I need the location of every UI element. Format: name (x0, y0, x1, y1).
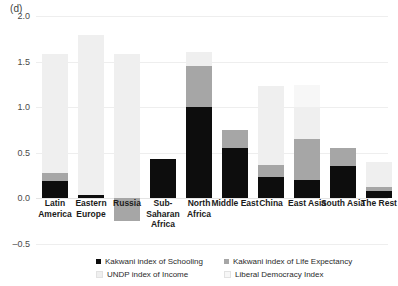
bar-segment (330, 148, 356, 166)
bar-segment (258, 177, 284, 198)
bar-segment (42, 181, 68, 198)
y-axis-tick-label: 0.0 (0, 193, 30, 203)
bar-segment (150, 159, 176, 198)
bar-segment (258, 165, 284, 178)
bar-segment (258, 86, 284, 164)
bar-segment (186, 52, 212, 66)
bar-segment (78, 35, 104, 195)
x-axis-category-label: The Rest (355, 198, 398, 209)
y-axis-tick-labels: –0.50.00.51.01.52.0 (0, 16, 32, 244)
bar-segment (366, 162, 392, 188)
bar-segment (42, 173, 68, 181)
bar-segment (222, 148, 248, 198)
legend-swatch-life_expectancy (224, 259, 229, 264)
category-label-line: The Rest (355, 198, 398, 209)
bar-segment (186, 66, 212, 107)
legend-label: UNDP index of Income (107, 270, 188, 279)
bar-segment (366, 187, 392, 191)
bar-segment (294, 139, 320, 180)
legend-item: Kakwani index of Life Expectancy (224, 257, 396, 266)
x-axis-category-labels: LatinAmericaEasternEuropeRussiaSub-Sahar… (36, 198, 392, 242)
legend-label: Liberal Democracy Index (235, 270, 323, 279)
bar-segment (330, 166, 356, 198)
legend-item: Liberal Democracy Index (224, 270, 396, 279)
chart-figure: (d) –0.50.00.51.01.52.0 LatinAmericaEast… (0, 0, 398, 286)
legend-swatch-democracy (224, 271, 231, 278)
bar-segment (42, 54, 68, 173)
bar-segment (222, 130, 248, 148)
category-label-line: Africa (175, 209, 223, 220)
y-axis-tick-label: 2.0 (0, 11, 30, 21)
bar-segment (294, 107, 320, 139)
y-axis-tick-label: 1.0 (0, 102, 30, 112)
category-label-line: Africa (139, 219, 187, 230)
legend-item: Kakwani index of Schooling (96, 257, 224, 266)
gridline (36, 244, 388, 245)
bar-segment (186, 107, 212, 198)
y-axis-tick-label: 0.5 (0, 148, 30, 158)
category-label-line: Europe (67, 209, 115, 220)
bar-segment (294, 180, 320, 198)
legend-label: Kakwani index of Life Expectancy (233, 257, 352, 266)
legend-swatch-income (96, 271, 103, 278)
legend-item: UNDP index of Income (96, 270, 224, 279)
bar-segment (294, 85, 320, 107)
bar-segment (114, 54, 140, 198)
chart-legend: Kakwani index of SchoolingKakwani index … (96, 255, 396, 281)
legend-swatch-schooling (96, 259, 101, 264)
legend-label: Kakwani index of Schooling (105, 257, 203, 266)
y-axis-tick-label: –0.5 (0, 239, 30, 249)
y-axis-tick-label: 1.5 (0, 57, 30, 67)
